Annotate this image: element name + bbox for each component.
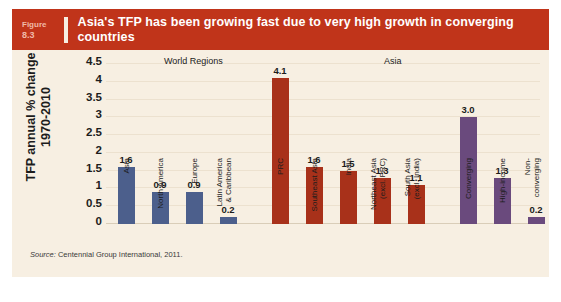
x-tick-label: PRC bbox=[276, 158, 285, 228]
bar[interactable]: 0.9North America bbox=[152, 192, 169, 224]
x-tick-label: Europe bbox=[190, 158, 199, 228]
x-tick-label: North America bbox=[156, 158, 165, 228]
x-tick-label: Non- converging bbox=[523, 158, 541, 228]
y-tick-label: 2.5 bbox=[60, 126, 102, 138]
y-tick-label: 1.5 bbox=[60, 162, 102, 174]
bar[interactable]: 1.6Asia bbox=[118, 167, 135, 224]
y-tick-label: 3 bbox=[60, 108, 102, 120]
group-title: World Regions bbox=[164, 56, 223, 66]
x-tick-label: South Asia (excl. India) bbox=[403, 158, 421, 228]
y-tick-label: 0.5 bbox=[60, 197, 102, 209]
source-note: Source: Centennial Group International, … bbox=[30, 250, 182, 259]
x-tick-label: Latin America & Caribbean bbox=[215, 158, 233, 228]
figure-number-block: Figure 8.3 bbox=[18, 19, 64, 41]
y-tick-label: 4 bbox=[60, 73, 102, 85]
y-axis-title: TFP annual % change 1970-2010 bbox=[24, 42, 54, 192]
bar-value-label: 4.1 bbox=[273, 65, 286, 76]
bar[interactable]: 1.5India bbox=[340, 171, 357, 224]
source-text: Centennial Group International, 2011. bbox=[58, 250, 183, 259]
figure-title: Asia's TFP has been growing fast due to … bbox=[78, 15, 549, 45]
y-tick: 4 bbox=[84, 81, 540, 82]
x-tick-label: Southeast Asia bbox=[310, 158, 319, 228]
y-tick: 3.5 bbox=[84, 99, 540, 100]
gridline bbox=[106, 99, 540, 100]
header-divider bbox=[64, 17, 68, 43]
x-tick-label: High-income bbox=[498, 158, 507, 228]
group-title: Asia bbox=[384, 56, 402, 66]
figure-header: Figure 8.3 Asia's TFP has been growing f… bbox=[12, 9, 549, 50]
x-tick-label: Northeast Asia (excl. PRC) bbox=[369, 158, 387, 228]
y-tick: 4.5 bbox=[84, 63, 540, 64]
source-prefix: Source: bbox=[30, 250, 56, 259]
plot-axes: 00.511.522.533.544.5 World RegionsAsia 1… bbox=[84, 64, 540, 224]
bar[interactable]: 1.1South Asia (excl. India) bbox=[408, 185, 425, 224]
y-tick-label: 1 bbox=[60, 179, 102, 191]
y-tick-label: 4.5 bbox=[60, 55, 102, 67]
x-tick-label: Asia bbox=[122, 158, 131, 228]
figure-label: Figure bbox=[22, 19, 64, 30]
bar[interactable]: 1.3High-income bbox=[494, 178, 511, 224]
bar-value-label: 3.0 bbox=[461, 104, 474, 115]
bar[interactable]: 0.2Non- converging bbox=[528, 217, 545, 224]
bar[interactable]: 0.9Europe bbox=[186, 192, 203, 224]
bar[interactable]: 4.1PRC bbox=[272, 78, 289, 224]
figure-number: 8.3 bbox=[22, 30, 64, 41]
x-tick-label: Converging bbox=[464, 158, 473, 228]
bar[interactable]: 0.2Latin America & Caribbean bbox=[220, 217, 237, 224]
y-tick-label: 3.5 bbox=[60, 91, 102, 103]
x-tick-label: India bbox=[344, 158, 353, 228]
bar[interactable]: 3.0Converging bbox=[460, 117, 477, 224]
y-tick-label: 0 bbox=[60, 215, 102, 227]
figure-panel: Figure 8.3 Asia's TFP has been growing f… bbox=[12, 9, 549, 277]
gridline bbox=[106, 81, 540, 82]
bar[interactable]: 1.6Southeast Asia bbox=[306, 167, 323, 224]
chart-area: TFP annual % change 1970-2010 00.511.522… bbox=[12, 50, 549, 277]
y-tick-label: 2 bbox=[60, 144, 102, 156]
bar[interactable]: 1.3Northeast Asia (excl. PRC) bbox=[374, 178, 391, 224]
